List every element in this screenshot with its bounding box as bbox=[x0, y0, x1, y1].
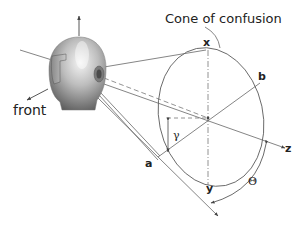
cone-dashed-line bbox=[104, 78, 208, 118]
z-axis bbox=[104, 84, 285, 148]
a-b-diameter bbox=[158, 83, 260, 157]
front-label: front bbox=[13, 103, 46, 117]
point-b-label: b bbox=[258, 71, 266, 82]
cone-line-to-x bbox=[104, 50, 206, 67]
front-arrow bbox=[27, 89, 48, 100]
z-axis-label: z bbox=[285, 143, 291, 154]
theta-label: Θ bbox=[248, 176, 257, 187]
center-point bbox=[207, 117, 210, 120]
point-a-label: a bbox=[145, 158, 152, 169]
gamma-label: γ bbox=[173, 130, 180, 141]
theta-arc bbox=[211, 144, 266, 203]
diagram-title: Cone of confusion bbox=[165, 12, 282, 25]
cone-base-ellipse bbox=[146, 38, 277, 197]
point-y-label: y bbox=[206, 183, 213, 194]
cone-line-to-a-1 bbox=[100, 92, 160, 156]
dummy-head bbox=[49, 37, 106, 110]
interaural-axis-left bbox=[20, 50, 52, 60]
point-x-label: x bbox=[203, 37, 210, 48]
